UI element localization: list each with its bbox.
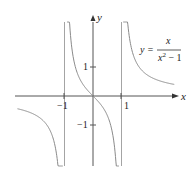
annotation-numerator: x xyxy=(165,35,171,46)
x-tick-label-neg1: −1 xyxy=(57,100,68,111)
y-axis: y xyxy=(91,11,103,166)
y-axis-arrow-icon xyxy=(91,15,96,21)
x-tick-label-1: 1 xyxy=(124,100,129,111)
x-axis-label: x xyxy=(180,90,186,102)
function-plot: x y −1 1 1 −1 y = x x2 − 1 xyxy=(0,0,194,184)
y-axis-label: y xyxy=(96,11,102,23)
annotation-denominator: x2 − 1 xyxy=(157,51,182,63)
x-axis-arrow-icon xyxy=(172,94,179,99)
y-tick-label-neg1: −1 xyxy=(77,119,88,130)
function-annotation: y = x x2 − 1 xyxy=(139,35,182,63)
y-tick-label-1: 1 xyxy=(83,61,88,72)
annotation-lhs: y = xyxy=(139,44,154,55)
x-axis: x xyxy=(15,90,186,102)
branch-left xyxy=(17,109,62,166)
